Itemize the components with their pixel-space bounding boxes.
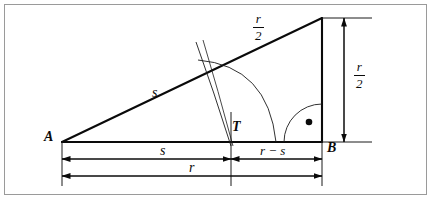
- fraction-denominator: 2: [253, 29, 264, 43]
- hypotenuse-segment: [62, 18, 322, 142]
- triangle-outline: [62, 18, 322, 142]
- right-angle-dot-icon: [306, 119, 313, 126]
- fraction-denominator: 2: [354, 77, 365, 91]
- construction-arc-to-T: [196, 42, 231, 146]
- right-angle-arc: [284, 104, 322, 142]
- point-label-a: A: [44, 130, 53, 144]
- point-label-t: T: [232, 120, 241, 134]
- dimension-label-r-minus-s: r − s: [260, 144, 285, 157]
- dimension-label-r: r: [189, 161, 194, 175]
- point-label-b: B: [327, 141, 336, 155]
- dimension-label-half-r-vertical: r 2: [354, 60, 365, 91]
- construction-arc-secondary: [203, 40, 233, 146]
- segment-label-half-r-hypotenuse: r 2: [253, 12, 264, 43]
- fraction-numerator: r: [354, 60, 365, 74]
- segment-label-s: s: [152, 86, 157, 100]
- figure-root: A B T s r 2 r 2 s r − s r: [0, 0, 433, 201]
- fraction-numerator: r: [253, 12, 264, 26]
- geometry-drawing: [0, 0, 433, 201]
- dimension-label-s: s: [160, 144, 165, 158]
